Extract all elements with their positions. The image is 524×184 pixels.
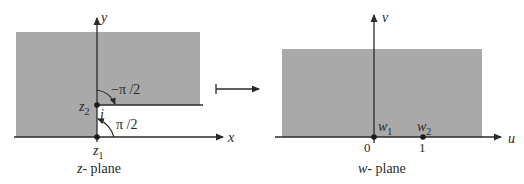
angle-label-lower: π /2 xyxy=(116,117,137,132)
y-axis-label: y xyxy=(99,10,108,25)
z-plane-region xyxy=(16,32,200,137)
tick-1-label: 1 xyxy=(419,140,426,155)
point-z2 xyxy=(94,102,100,108)
point-w1 xyxy=(371,134,377,140)
point-i-label: i xyxy=(100,107,104,122)
point-z1 xyxy=(94,134,100,140)
point-z1-label: z1 xyxy=(92,143,103,161)
x-axis-label: x xyxy=(227,130,235,145)
u-axis-label: u xyxy=(508,131,515,146)
angle-label-upper: −π /2 xyxy=(111,82,140,97)
point-w2 xyxy=(420,134,426,140)
z-plane: y x −π /2 π /2 i z2 z1 z- plane xyxy=(14,10,235,176)
conformal-mapping-diagram: y x −π /2 π /2 i z2 z1 z- plane v u w1 w… xyxy=(0,0,524,184)
tick-0-label: 0 xyxy=(364,140,371,155)
w-plane-caption: w- plane xyxy=(358,161,406,176)
w-plane: v u w1 w2 0 1 w- plane xyxy=(275,10,515,176)
v-axis-label: v xyxy=(382,10,389,25)
z-plane-caption: z- plane xyxy=(76,161,121,176)
maps-to-arrow-icon xyxy=(216,84,259,94)
